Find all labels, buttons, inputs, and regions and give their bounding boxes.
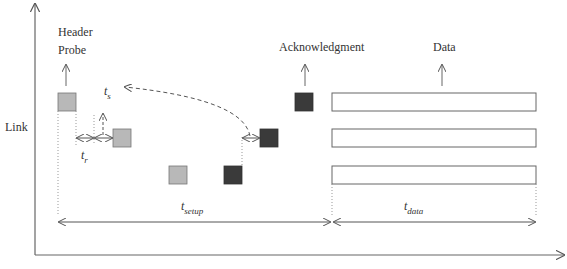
ack-packet-3: [295, 93, 313, 111]
t-data-label: tdata: [404, 199, 423, 216]
acknowledgment-label: Acknowledgment: [279, 40, 364, 55]
probe-packet-1: [58, 93, 76, 111]
y-axis-label: Link: [5, 120, 28, 135]
probe-label: Probe: [58, 43, 86, 58]
t-data-sub: data: [407, 206, 423, 216]
ack-packet-1: [224, 166, 242, 184]
data-block-3: [332, 166, 536, 184]
data-blocks: [332, 93, 536, 184]
probe-packet-2: [113, 129, 131, 147]
t-r-label: tr: [81, 148, 88, 165]
data-label: Data: [433, 40, 456, 55]
data-block-2: [332, 129, 536, 147]
t-r-sub: r: [84, 155, 88, 165]
t-s-sub: s: [107, 91, 111, 101]
dotted-guides: [58, 111, 536, 215]
t-setup-label: tsetup: [181, 199, 203, 216]
ack-packets: [224, 93, 313, 184]
header-label: Header: [58, 25, 93, 40]
ack-packet-2: [260, 129, 278, 147]
feedback-dashed-arrow: [125, 87, 250, 136]
probe-packet-3: [169, 166, 187, 184]
data-block-1: [332, 93, 536, 111]
t-setup-sub: setup: [184, 206, 203, 216]
t-s-label: ts: [104, 84, 111, 101]
